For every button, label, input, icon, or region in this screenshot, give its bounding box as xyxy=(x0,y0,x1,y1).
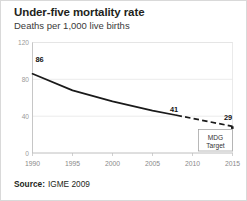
y-tick-label-80: 80 xyxy=(22,76,30,83)
source-value: IGME 2009 xyxy=(48,179,90,189)
line-chart-svg: 120 80 40 0 1990 1995 2000 2005 2010 201… xyxy=(1,1,247,201)
y-tick-label-40: 40 xyxy=(22,113,30,120)
target-endpoint-marker xyxy=(231,126,234,129)
mdg-target-line1: MDG xyxy=(208,134,223,141)
x-tick-label-2005: 2005 xyxy=(145,160,160,167)
y-tick-label-120: 120 xyxy=(18,39,29,46)
data-label-86: 86 xyxy=(35,55,43,64)
mdg-target-line2: Target xyxy=(206,142,224,150)
x-tick-label-1995: 1995 xyxy=(65,160,80,167)
y-tick-label-0: 0 xyxy=(25,150,29,157)
x-tick-label-1990: 1990 xyxy=(25,160,40,167)
x-tick-label-2000: 2000 xyxy=(105,160,120,167)
chart-plot-area: 120 80 40 0 1990 1995 2000 2005 2010 201… xyxy=(1,1,247,201)
x-tick-label-2015: 2015 xyxy=(225,160,240,167)
chart-card: Under-five mortality rate Deaths per 1,0… xyxy=(0,0,247,201)
series-line-observed xyxy=(33,74,177,115)
data-label-29: 29 xyxy=(224,113,232,122)
source-label: Source: xyxy=(14,179,45,189)
data-label-41: 41 xyxy=(170,105,178,114)
source-note: Source:IGME 2009 xyxy=(14,179,90,189)
x-tick-label-2010: 2010 xyxy=(185,160,200,167)
